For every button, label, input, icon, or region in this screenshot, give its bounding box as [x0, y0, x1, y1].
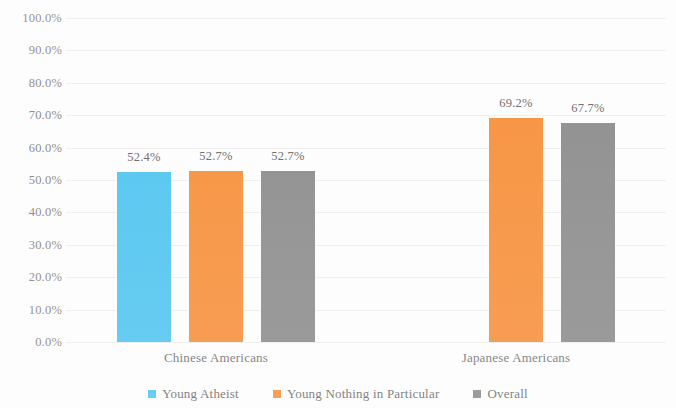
chart-legend: Young AtheistYoung Nothing in Particular… — [0, 386, 676, 402]
legend-label: Young Atheist — [162, 386, 239, 402]
y-axis-tick-label: 100.0% — [0, 11, 62, 26]
bar-value-label: 67.7% — [553, 101, 623, 116]
y-axis-tick-label: 80.0% — [0, 75, 62, 90]
legend-item[interactable]: Young Nothing in Particular — [273, 386, 440, 402]
legend-label: Young Nothing in Particular — [287, 386, 440, 402]
legend-swatch-icon — [148, 390, 156, 398]
x-axis-category-label: Chinese Americans — [66, 350, 366, 366]
bar-chart: 100.0%90.0%80.0%70.0%60.0%50.0%40.0%30.0… — [0, 0, 676, 408]
y-axis-tick-label: 0.0% — [0, 335, 62, 350]
legend-label: Overall — [487, 386, 527, 402]
y-axis-tick-label: 90.0% — [0, 43, 62, 58]
bar — [489, 118, 543, 342]
legend-item[interactable]: Young Atheist — [148, 386, 239, 402]
legend-swatch-icon — [473, 390, 481, 398]
gridline — [66, 50, 666, 51]
y-axis-tick-label: 50.0% — [0, 173, 62, 188]
legend-swatch-icon — [273, 390, 281, 398]
bar-value-label: 52.7% — [181, 149, 251, 164]
y-axis: 100.0%90.0%80.0%70.0%60.0%50.0%40.0%30.0… — [0, 0, 62, 360]
y-axis-tick-label: 60.0% — [0, 140, 62, 155]
x-axis-category-label: Japanese Americans — [366, 350, 666, 366]
y-axis-tick-label: 30.0% — [0, 237, 62, 252]
gridline — [66, 342, 666, 343]
legend-item[interactable]: Overall — [473, 386, 527, 402]
bar — [117, 172, 171, 342]
bar-value-label: 69.2% — [481, 96, 551, 111]
bar — [189, 171, 243, 342]
bar-value-label: 52.7% — [253, 149, 323, 164]
gridline — [66, 83, 666, 84]
y-axis-tick-label: 10.0% — [0, 302, 62, 317]
y-axis-tick-label: 70.0% — [0, 108, 62, 123]
gridline — [66, 18, 666, 19]
bar — [561, 123, 615, 342]
y-axis-tick-label: 40.0% — [0, 205, 62, 220]
plot-area: 52.4%52.7%52.7%69.2%67.7% — [66, 18, 666, 342]
bar — [261, 171, 315, 342]
bar-value-label: 52.4% — [109, 150, 179, 165]
y-axis-tick-label: 20.0% — [0, 270, 62, 285]
